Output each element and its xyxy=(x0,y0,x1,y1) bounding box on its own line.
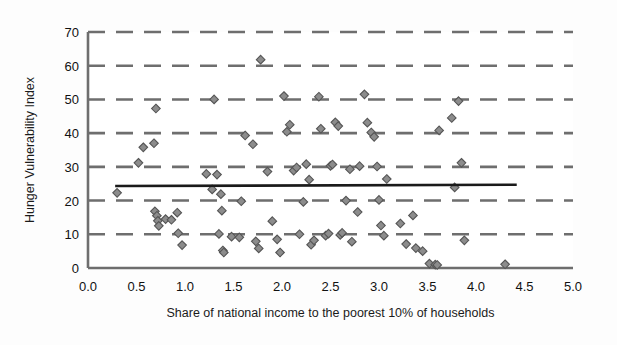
trend-line xyxy=(115,185,517,186)
y-tick-label: 40 xyxy=(65,126,79,141)
x-tick-label: 1.0 xyxy=(176,279,194,294)
x-tick-label: 5.0 xyxy=(564,279,582,294)
x-axis-title: Share of national income to the poorest … xyxy=(167,306,495,320)
y-axis-title: Hunger Vulnerability Index xyxy=(23,76,37,223)
x-tick-label: 4.0 xyxy=(467,279,485,294)
x-tick-label: 0.0 xyxy=(79,279,97,294)
y-tick-label: 50 xyxy=(65,92,79,107)
y-tick-label: 20 xyxy=(65,194,79,209)
x-tick-label: 1.5 xyxy=(224,279,242,294)
x-tick-label: 2.0 xyxy=(273,279,291,294)
y-tick-label: 60 xyxy=(65,59,79,74)
x-tick-label: 2.5 xyxy=(321,279,339,294)
x-tick-label: 3.5 xyxy=(418,279,436,294)
x-tick-label: 3.0 xyxy=(370,279,388,294)
x-tick-label: 0.5 xyxy=(127,279,145,294)
y-tick-label: 10 xyxy=(65,227,79,242)
y-tick-label: 0 xyxy=(72,261,79,276)
y-tick-label: 30 xyxy=(65,160,79,175)
scatter-plot: 0102030405060700.00.51.01.52.02.53.03.54… xyxy=(0,0,617,345)
y-tick-label: 70 xyxy=(65,25,79,40)
x-tick-label: 4.5 xyxy=(515,279,533,294)
chart-figure: 0102030405060700.00.51.01.52.02.53.03.54… xyxy=(0,0,617,345)
